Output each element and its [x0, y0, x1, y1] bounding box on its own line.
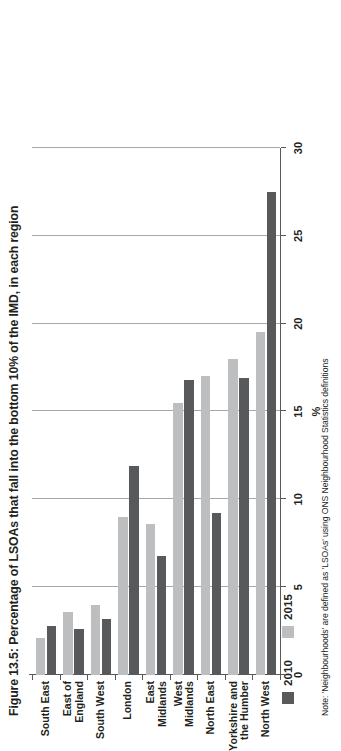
plot-area: 051015202530%North WestYorkshire and the…	[32, 148, 280, 675]
bar-2010	[102, 619, 112, 675]
category-label: South West	[95, 681, 107, 751]
x-axis-tick-label: 5	[292, 584, 304, 590]
y-axis-tick	[170, 675, 171, 680]
y-axis-tick	[225, 675, 226, 680]
y-axis-tick	[142, 675, 143, 680]
y-axis-tick	[197, 675, 198, 680]
category-label: North East	[205, 681, 217, 751]
category-label: East of England	[62, 681, 85, 751]
legend-swatch-2010	[282, 692, 294, 704]
bar-2010	[129, 466, 139, 675]
legend-item-2010: 2010	[282, 660, 294, 704]
y-axis-tick	[280, 675, 281, 680]
y-axis-tick	[32, 675, 33, 680]
x-axis-tick	[281, 586, 286, 587]
bar-group	[252, 148, 280, 675]
figure-title: Figure 13.5: Percentage of LSOAs that fa…	[7, 76, 21, 716]
chart-legend: 2010 2015	[282, 594, 294, 704]
bar-2010	[74, 629, 84, 675]
bar-2015	[63, 612, 73, 675]
bar-2015	[228, 359, 238, 675]
bar-2010	[157, 556, 167, 675]
x-axis-tick-label: 0	[292, 672, 304, 678]
legend-swatch-2015	[282, 626, 294, 638]
bar-2015	[201, 376, 211, 675]
bar-group	[87, 148, 115, 675]
x-axis-tick	[281, 147, 286, 148]
category-label: London	[123, 681, 135, 751]
bar-2010	[184, 380, 194, 675]
x-axis-line	[280, 148, 281, 675]
category-label: West Midlands	[172, 681, 195, 751]
category-label: East Midlands	[145, 681, 168, 751]
bar-2015	[256, 332, 266, 675]
x-axis-tick-label: 10	[292, 493, 304, 505]
bar-group	[142, 148, 170, 675]
bar-2010	[239, 378, 249, 675]
bar-group	[197, 148, 225, 675]
legend-item-2015: 2015	[282, 594, 294, 638]
x-axis-tick	[281, 235, 286, 236]
category-label: South East	[40, 681, 52, 751]
bar-group	[60, 148, 88, 675]
bar-group	[225, 148, 253, 675]
x-axis-tick	[281, 411, 286, 412]
bar-2015	[36, 638, 46, 675]
category-label: North West	[260, 681, 272, 751]
x-axis-tick	[281, 323, 286, 324]
category-label: Yorkshire and the Humber	[227, 681, 250, 751]
bar-2010	[212, 513, 222, 675]
bar-2010	[47, 626, 57, 675]
bar-2015	[146, 524, 156, 675]
x-axis-tick-label: 15	[292, 405, 304, 417]
bar-group	[32, 148, 60, 675]
bar-group	[170, 148, 198, 675]
bar-group	[115, 148, 143, 675]
x-axis-tick-label: 20	[292, 318, 304, 330]
figure-note: Note: 'Neighbourhoods' are defined as 'L…	[320, 16, 330, 716]
bar-2015	[118, 517, 128, 675]
y-axis-tick	[252, 675, 253, 680]
y-axis-tick	[60, 675, 61, 680]
legend-label-2015: 2015	[282, 594, 294, 620]
bar-2015	[91, 605, 101, 675]
bar-2010	[267, 192, 277, 675]
x-axis-tick	[281, 498, 286, 499]
y-axis-tick	[115, 675, 116, 680]
bar-2015	[173, 403, 183, 675]
y-axis-tick	[87, 675, 88, 680]
x-axis-tick-label: 25	[292, 230, 304, 242]
x-axis-tick	[281, 674, 286, 675]
x-axis-tick-label: 30	[292, 142, 304, 154]
